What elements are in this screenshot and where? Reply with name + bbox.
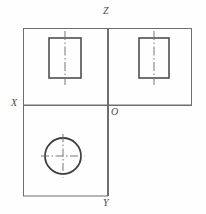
side-view-panel — [109, 29, 192, 106]
x-axis-label: X — [11, 98, 17, 108]
origin-label: O — [111, 107, 118, 117]
z-axis-label: Z — [103, 6, 109, 16]
technical-drawing-canvas: Z X O Y — [0, 0, 206, 214]
y-axis-label: Y — [103, 198, 109, 208]
top-view-panel — [24, 106, 108, 197]
orthographic-projection-drawing — [0, 0, 206, 214]
